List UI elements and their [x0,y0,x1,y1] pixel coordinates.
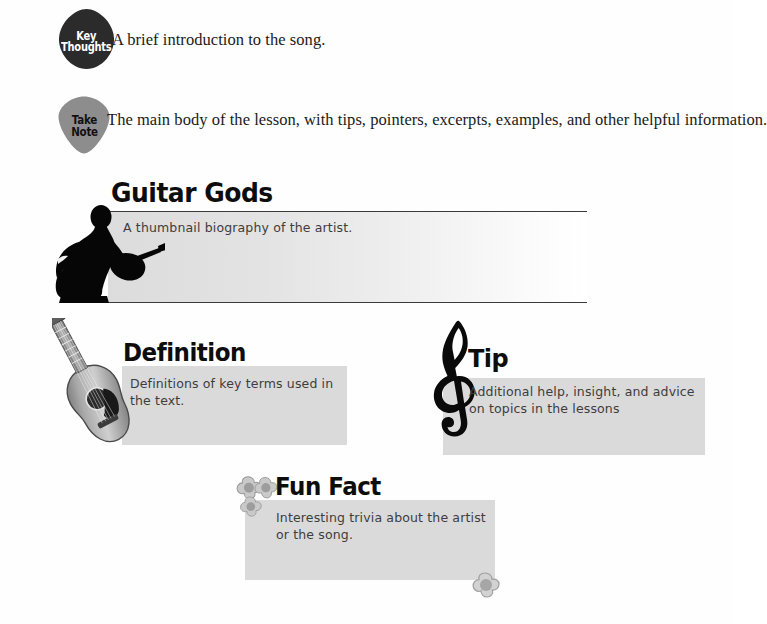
guitar-gods-section: Guitar Gods A thumbnail biography of the… [55,176,595,308]
take-note-pick-label: Take Note [71,114,98,138]
definition-title: Definition [123,339,246,366]
flower-icon [470,570,500,600]
guitar-gods-title: Guitar Gods [111,178,273,208]
fun-fact-section: Fun Fact Interesting trivia about the ar… [232,470,532,615]
key-thoughts-label-line2: Thoughts [61,42,111,54]
seated-guitarist-silhouette-icon [55,204,165,304]
take-note-entry: Take Note The main body of the lesson, w… [58,96,718,158]
definition-section: Definition Definitions of key terms used… [52,318,352,458]
guitar-gods-bottom-rule [108,302,587,303]
fun-fact-body: Interesting trivia about the artist or t… [276,510,491,544]
guitar-gods-body: A thumbnail biography of the artist. [123,220,543,237]
treble-clef-icon [428,320,480,440]
take-note-pick-icon: Take Note [58,96,110,154]
key-thoughts-pick-icon: Key Thoughts [58,8,115,70]
tip-title: Tip [468,344,508,373]
tip-section: Tip Additional help, insight, and advice… [428,318,718,458]
take-note-label-line2: Note [71,126,98,138]
key-thoughts-entry: Key Thoughts A brief introduction to the… [58,8,718,76]
definition-body: Definitions of key terms used in the tex… [130,376,335,410]
take-note-description: The main body of the lesson, with tips, … [107,110,767,130]
guitar-gods-top-rule [108,211,587,212]
tip-body: Additional help, insight, and advice on … [469,384,699,418]
key-thoughts-pick-label: Key Thoughts [61,31,111,54]
key-thoughts-description: A brief introduction to the song. [112,30,325,50]
flower-cluster-icon [235,473,279,521]
fun-fact-title: Fun Fact [275,473,381,500]
